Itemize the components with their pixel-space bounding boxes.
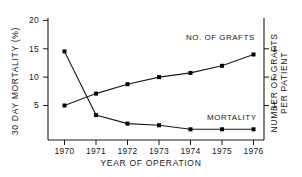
right-axis-title-line-2: PER PATIENT <box>279 23 289 143</box>
x-axis-ticks <box>65 140 254 145</box>
chart-figure: 30 DAY MORTALITY (%) NUMBER OF GRAFTS PE… <box>0 0 302 177</box>
x-axis-title: YEAR OF OPERATION <box>0 158 302 168</box>
y2-tick-label-1: 1 <box>272 100 292 110</box>
y-tick-label-20: 20 <box>19 15 39 25</box>
y2-tick-label-3: 3 <box>272 44 292 54</box>
x-tick-label-1975: 1975 <box>205 146 239 156</box>
x-tick-label-1972: 1972 <box>111 146 145 156</box>
series-line-grafts <box>65 55 254 106</box>
x-tick-label-1970: 1970 <box>48 146 82 156</box>
x-tick-label-1971: 1971 <box>79 146 113 156</box>
series-annotation-grafts: NO. OF GRAFTS <box>186 33 255 42</box>
y-tick-label-5: 5 <box>19 100 39 110</box>
x-tick-label-1973: 1973 <box>142 146 176 156</box>
y-tick-label-15: 15 <box>19 44 39 54</box>
x-tick-label-1976: 1976 <box>237 146 271 156</box>
x-tick-label-1974: 1974 <box>174 146 208 156</box>
left-axis-ticks <box>43 20 48 105</box>
y-tick-label-10: 10 <box>19 72 39 82</box>
series-annotation-mortality: MORTALITY <box>207 113 257 122</box>
y2-tick-label-2: 2 <box>272 72 292 82</box>
series-markers-grafts <box>63 53 256 108</box>
right-axis-title-line-1: NUMBER OF GRAFTS <box>269 23 279 143</box>
